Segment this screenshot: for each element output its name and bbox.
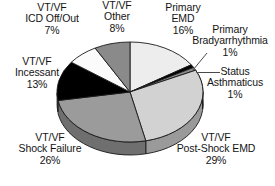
label-vtvf-incessant: VT/VF Incessant 13% — [0, 56, 74, 90]
label-status-asthmaticus: Status Asthmaticus 1% — [196, 66, 274, 100]
pie-chart: VT/VF ICD Off/Out 7% VT/VF Other 8% Prim… — [0, 0, 275, 186]
label-vtvf-shock-failure: VT/VF Shock Failure 26% — [2, 132, 98, 166]
label-vtvf-other: VT/VF Other 8% — [86, 0, 148, 34]
label-percent: 29% — [160, 155, 272, 166]
label-percent: 1% — [186, 47, 274, 58]
label-percent: 8% — [86, 23, 148, 34]
label-percent: 13% — [0, 79, 74, 90]
label-primary-bradyarrhythmia: Primary Bradyarrhythmia 1% — [186, 24, 274, 58]
pie-top-face — [57, 42, 203, 142]
label-percent: 1% — [196, 89, 274, 100]
label-percent: 26% — [2, 155, 98, 166]
label-vtvf-post-shock-emd: VT/VF Post-Shock EMD 29% — [160, 132, 272, 166]
label-percent: 7% — [6, 25, 98, 36]
label-vtvf-icd-off-out: VT/VF ICD Off/Out 7% — [6, 2, 98, 36]
